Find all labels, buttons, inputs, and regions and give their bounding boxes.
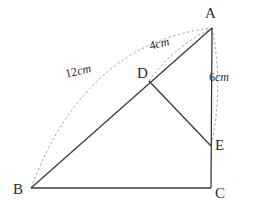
measurement-unit-EA: cm bbox=[215, 70, 229, 84]
geometry-diagram bbox=[0, 0, 259, 213]
vertex-label-A: A bbox=[205, 6, 216, 21]
vertex-label-D: D bbox=[137, 66, 148, 81]
vertex-label-B: B bbox=[13, 182, 23, 197]
vertex-label-E: E bbox=[215, 138, 224, 153]
vertex-label-C: C bbox=[215, 186, 225, 201]
measurement-label-EA: 6cm bbox=[209, 71, 229, 83]
